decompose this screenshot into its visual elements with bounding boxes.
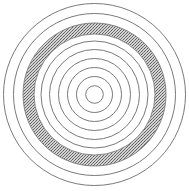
ring-circle xyxy=(14,14,176,176)
diagram-canvas xyxy=(0,0,189,191)
ring-circle xyxy=(59,59,131,131)
hatched-band xyxy=(23,23,166,166)
ring-circle xyxy=(86,86,104,104)
concentric-circles-diagram xyxy=(0,0,189,191)
ring-circle xyxy=(41,41,148,148)
stippled-band xyxy=(23,23,166,166)
ring-circle xyxy=(77,77,113,113)
ring-circle xyxy=(68,68,122,122)
ring-circle xyxy=(50,50,140,140)
